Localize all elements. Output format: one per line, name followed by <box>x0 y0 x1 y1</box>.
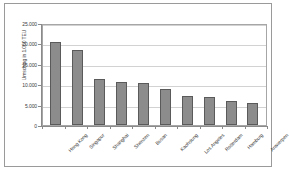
bar <box>50 42 61 125</box>
x-tick-mark <box>65 126 66 129</box>
x-axis-label: Los Angeles <box>203 132 226 155</box>
x-axis-label: Shanghai <box>111 132 130 151</box>
x-axis-label: Rotterdam <box>224 132 244 152</box>
x-axis-line <box>41 126 267 127</box>
bar <box>94 79 105 125</box>
x-tick-mark <box>222 126 223 129</box>
bar <box>116 82 127 125</box>
x-tick-mark <box>200 126 201 129</box>
bar <box>138 83 149 125</box>
y-tick-label: 5.000 <box>5 103 37 109</box>
x-tick-mark <box>245 126 246 129</box>
x-axis-label: Hong Kong <box>67 132 88 153</box>
bar <box>72 50 83 125</box>
x-axis-label: Kaohsiung <box>179 132 199 152</box>
x-tick-mark <box>155 126 156 129</box>
chart-frame: Umschlag in 1.000 TEU 25.00020.00015.000… <box>4 3 272 167</box>
y-tick-label: 15.000 <box>5 62 37 68</box>
plot-area <box>42 24 267 126</box>
bar-series <box>43 25 266 125</box>
bar <box>160 89 171 125</box>
y-tick-label: 20.000 <box>5 41 37 47</box>
bar <box>182 96 193 125</box>
x-tick-mark <box>132 126 133 129</box>
x-tick-mark <box>177 126 178 129</box>
bar <box>226 101 237 125</box>
x-axis-label: Shenzen <box>133 132 151 150</box>
x-tick-mark <box>42 126 43 129</box>
bar <box>247 103 258 125</box>
x-axis-label: Hamburg <box>246 132 264 150</box>
y-tick-label: 25.000 <box>5 21 37 27</box>
y-tick-label: 10.000 <box>5 82 37 88</box>
x-axis-label: Singapur <box>88 132 106 150</box>
x-tick-mark <box>87 126 88 129</box>
x-axis-label: Antwerpen <box>269 132 277 153</box>
y-tick-label: 0 <box>5 123 37 129</box>
x-tick-mark <box>110 126 111 129</box>
bar <box>204 97 215 125</box>
x-tick-mark <box>267 126 268 129</box>
x-axis-label: Busan <box>154 132 168 146</box>
